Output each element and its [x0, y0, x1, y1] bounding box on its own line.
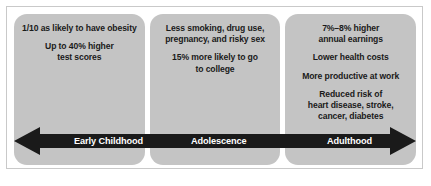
outcome-line: 1/10 as likely to have obesity	[20, 23, 139, 34]
stage-panel-early-childhood: 1/10 as likely to have obesity Up to 40%…	[14, 14, 145, 165]
panel-text-block: 1/10 as likely to have obesity Up to 40%…	[20, 23, 139, 64]
outcome-line: 15% more likely to go to college	[156, 52, 275, 74]
stage-panel-row: 1/10 as likely to have obesity Up to 40%…	[14, 14, 416, 165]
outcome-line: 7%–8% higher annual earnings	[291, 23, 410, 45]
panel-text-block: Less smoking, drug use, pregnancy, and r…	[156, 23, 275, 75]
outcome-line: More productive at work	[291, 71, 410, 82]
outcome-line: Up to 40% higher test scores	[20, 41, 139, 63]
outcome-line: Less smoking, drug use, pregnancy, and r…	[156, 23, 275, 45]
outcome-line: Reduced risk of heart disease, stroke, c…	[291, 89, 410, 123]
stage-panel-adulthood: 7%–8% higher annual earnings Lower healt…	[285, 14, 416, 165]
life-course-outcomes-figure: 1/10 as likely to have obesity Up to 40%…	[0, 0, 431, 186]
stage-panel-adolescence: Less smoking, drug use, pregnancy, and r…	[150, 14, 281, 165]
panel-text-block: 7%–8% higher annual earnings Lower healt…	[291, 23, 410, 122]
outcome-line: Lower health costs	[291, 52, 410, 63]
